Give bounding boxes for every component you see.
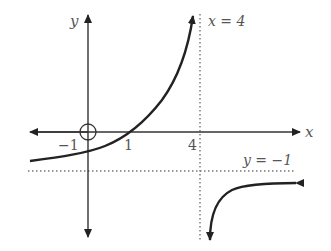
- y-axis-label: y: [69, 12, 79, 30]
- curve-left-branch: [30, 16, 193, 161]
- vertical-asymptote-label: x = 4: [208, 13, 245, 29]
- tick-label-one: 1: [124, 137, 133, 153]
- curve-right-branch: [210, 183, 296, 240]
- graph-figure: y x −1 1 4 x = 4 y = −1: [0, 0, 331, 251]
- tick-label-four: 4: [188, 137, 197, 153]
- tick-label-neg-one: −1: [58, 137, 79, 153]
- graph-canvas: y x −1 1 4 x = 4 y = −1: [0, 0, 331, 251]
- x-axis-label: x: [305, 123, 314, 141]
- horizontal-asymptote-label: y = −1: [242, 152, 292, 168]
